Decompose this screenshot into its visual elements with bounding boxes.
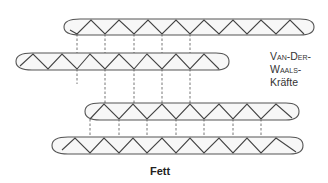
fat-molecule-diagram bbox=[0, 0, 328, 183]
van-der-waals-label: Van-Der- Waals- Kräfte bbox=[270, 50, 311, 89]
hydrocarbon-chain-2 bbox=[16, 53, 229, 70]
label-line-2: Waals- bbox=[270, 63, 311, 76]
van-der-waals-dashes bbox=[77, 34, 261, 154]
hydrocarbon-chain-3 bbox=[85, 103, 299, 120]
hydrocarbon-chain-4 bbox=[52, 137, 303, 154]
label-line-3: Kräfte bbox=[270, 76, 311, 89]
label-line-1: Van-Der- bbox=[270, 50, 311, 63]
diagram-title: Fett bbox=[150, 165, 170, 177]
hydrocarbon-chain-1 bbox=[64, 19, 314, 35]
